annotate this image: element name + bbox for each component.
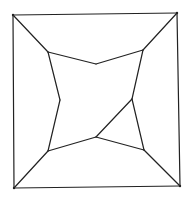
- edge-outer-tr-outer-br: [177, 13, 180, 186]
- edge-outer-tl-inner-tl: [13, 15, 48, 52]
- edge-inner-tr-inner-right: [132, 50, 143, 99]
- edge-inner-br-inner-bottom: [96, 137, 144, 150]
- edge-inner-bottom-inner-bl: [48, 137, 96, 151]
- vertex-outer-br: [179, 185, 181, 187]
- edge-inner-right-inner-br: [132, 99, 144, 150]
- edge-inner-left-inner-tl: [48, 52, 60, 100]
- edge-outer-tr-inner-tr: [143, 13, 177, 50]
- graph-edges: [13, 13, 180, 188]
- graph-diagram: [0, 0, 189, 200]
- edge-outer-br-outer-bl: [14, 186, 180, 188]
- edge-inner-bl-inner-left: [48, 100, 60, 151]
- vertex-outer-bl: [13, 187, 15, 189]
- edge-inner-top-inner-tr: [96, 50, 143, 64]
- vertex-outer-tr: [176, 12, 178, 14]
- edge-inner-tl-inner-top: [48, 52, 96, 64]
- vertex-outer-tl: [12, 14, 14, 16]
- edge-outer-tl-outer-tr: [13, 13, 177, 15]
- edge-outer-bl-inner-bl: [14, 151, 48, 188]
- edge-outer-bl-outer-tl: [13, 15, 14, 188]
- edge-inner-right-inner-bottom: [96, 99, 132, 137]
- edge-outer-br-inner-br: [144, 150, 180, 186]
